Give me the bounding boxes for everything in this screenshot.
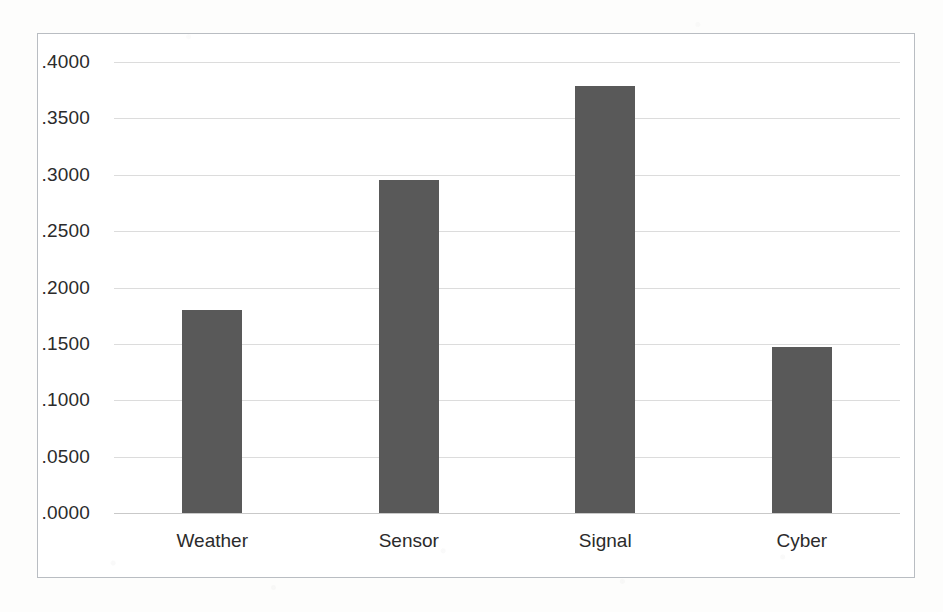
ytick-label-3: .2500 (41, 220, 90, 242)
ytick-label-6: .1000 (41, 389, 90, 411)
bar-weather[interactable] (182, 310, 242, 513)
bar-sensor[interactable] (379, 180, 439, 513)
bar-slot-sensor: Sensor (311, 62, 508, 513)
bars-layer: Weather Sensor Signal Cyber (114, 62, 900, 513)
ytick-label-4: .2000 (41, 277, 90, 299)
plot-area: .4000 .3500 .3000 .2500 .2000 .1500 .100… (114, 62, 900, 513)
xtick-label-cyber: Cyber (776, 530, 827, 552)
chart-frame: .4000 .3500 .3000 .2500 .2000 .1500 .100… (37, 33, 915, 578)
xtick-label-weather: Weather (177, 530, 248, 552)
bar-slot-signal: Signal (507, 62, 704, 513)
xtick-label-sensor: Sensor (379, 530, 439, 552)
bar-cyber[interactable] (772, 347, 832, 513)
xtick-label-signal: Signal (579, 530, 632, 552)
x-axis-line: .0000 (114, 513, 900, 514)
ytick-label-7: .0500 (41, 446, 90, 468)
bar-signal[interactable] (575, 86, 635, 513)
ytick-label-2: .3000 (41, 164, 90, 186)
bar-slot-cyber: Cyber (704, 62, 901, 513)
ytick-label-0: .4000 (41, 51, 90, 73)
ytick-label-1: .3500 (41, 107, 90, 129)
ytick-label-5: .1500 (41, 333, 90, 355)
ytick-label-8: .0000 (41, 502, 90, 524)
bar-slot-weather: Weather (114, 62, 311, 513)
